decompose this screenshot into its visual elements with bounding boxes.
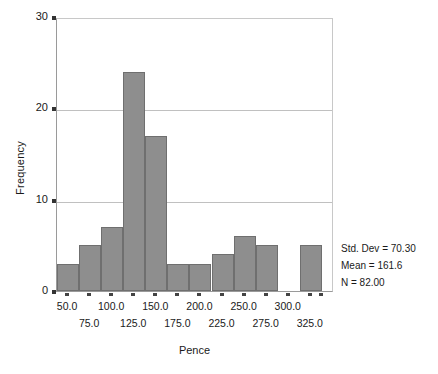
x-tick-label: 225.0 [198,317,246,329]
x-tick-label: 100.0 [87,300,135,312]
y-axis-title-container: Frequency [6,18,20,292]
histogram-bar [57,264,79,291]
x-tick-label: 50.0 [43,300,91,312]
histogram-bar [167,264,189,291]
histogram-bar [300,245,322,291]
x-tick-mark [175,293,179,296]
histogram-bar [101,227,123,291]
histogram-bar [79,245,101,291]
x-tick-label: 200.0 [175,300,223,312]
x-tick-mark [109,293,113,296]
x-tick-mark [131,293,135,296]
x-tick-mark [319,293,323,296]
mean-text: Mean = 161.6 [341,257,437,274]
histogram-bar [145,136,167,291]
y-tick-label: 0 [4,284,48,296]
x-tick-mark [87,293,91,296]
x-tick-label: 150.0 [131,300,179,312]
x-tick-mark [220,293,224,296]
histogram-bar [234,236,256,291]
x-tick-label: 275.0 [242,317,290,329]
y-axis-title: Frequency [14,18,28,318]
x-tick-label: 175.0 [153,317,201,329]
x-tick-label: 75.0 [65,317,113,329]
x-tick-label: 300.0 [264,300,312,312]
x-axis-title: Pence [56,344,333,356]
y-tick-label: 10 [4,193,48,205]
histogram-bar [123,72,145,291]
x-tick-label: 125.0 [109,317,157,329]
n-text: N = 82.00 [341,274,437,291]
histogram-figure: Frequency 0102030 50.075.0100.0125.0150.… [0,0,438,374]
histogram-bar [212,254,234,291]
histogram-bar [189,264,211,291]
x-tick-label: 250.0 [220,300,268,312]
plot-area [56,18,333,292]
y-tick-label: 30 [4,10,48,22]
x-tick-label: 325.0 [286,317,334,329]
x-tick-mark [197,293,201,296]
x-tick-mark [242,293,246,296]
x-tick-mark [65,293,69,296]
x-tick-mark [153,293,157,296]
y-tick-label: 20 [4,101,48,113]
x-tick-mark [308,293,312,296]
std-dev-text: Std. Dev = 70.30 [341,240,437,257]
histogram-bar [256,245,278,291]
bar-series [57,19,332,291]
statistics-annotation: Std. Dev = 70.30 Mean = 161.6 N = 82.00 [341,240,437,291]
x-tick-mark [286,293,290,296]
x-tick-mark [264,293,268,296]
